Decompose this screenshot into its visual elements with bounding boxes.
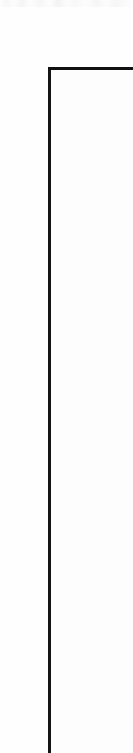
section-heading: 問題 9: [0, 58, 4, 190]
scanned-page-strip: 問題 9: [0, 0, 133, 753]
scan-edge-artifact: [0, 0, 133, 7]
section-heading-label: 問題 9: [0, 56, 3, 191]
content-frame: [48, 67, 133, 753]
